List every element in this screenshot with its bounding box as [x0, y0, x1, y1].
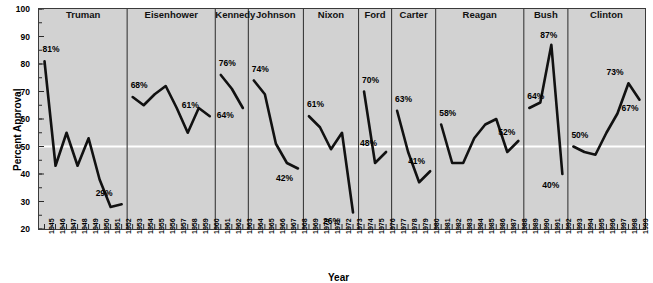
panel-label-kennedy: Kennedy — [215, 9, 248, 20]
series-lines-svg — [39, 9, 645, 229]
panel-label-eisenhower: Eisenhower — [127, 9, 215, 20]
panel-label-nixon: Nixon — [303, 9, 358, 20]
y-axis-title: Percent Approval — [12, 89, 23, 171]
series-line-kennedy — [221, 75, 243, 108]
y-tick-20: 20 — [4, 224, 30, 234]
x-tick-1954: 1954 — [147, 218, 154, 234]
value-label-nixon-1969: 61% — [307, 99, 324, 109]
value-label-carter-1980: 41% — [408, 156, 425, 166]
x-tick-1957: 1957 — [180, 218, 187, 234]
value-label-kennedy-1961: 76% — [219, 58, 236, 68]
value-label-reagan-1981: 58% — [439, 108, 456, 118]
y-tick-40: 40 — [4, 169, 30, 179]
panel-label-johnson: Johnson — [248, 9, 303, 20]
x-tick-1971: 1971 — [334, 218, 341, 234]
x-tick-1946: 1946 — [59, 218, 66, 234]
x-tick-1996: 1996 — [609, 218, 616, 234]
value-label-eisenhower-1960: 61% — [182, 100, 199, 110]
x-tick-1993: 1993 — [576, 218, 583, 234]
x-tick-1984: 1984 — [477, 218, 484, 234]
x-tick-1967: 1967 — [290, 218, 297, 234]
x-tick-1987: 1987 — [510, 218, 517, 234]
x-tick-1960: 1960 — [213, 218, 220, 234]
x-tick-1989: 1989 — [532, 218, 539, 234]
x-tick-1948: 1948 — [81, 218, 88, 234]
x-tick-1988: 1988 — [521, 218, 528, 234]
x-tick-1970: 1970 — [323, 218, 330, 234]
panel-label-bush: Bush — [524, 9, 568, 20]
panel-label-truman: Truman — [39, 9, 127, 20]
value-label-bush-1991: 87% — [540, 30, 557, 40]
x-tick-1997: 1997 — [620, 218, 627, 234]
x-tick-1973: 1973 — [356, 218, 363, 234]
x-tick-1962: 1962 — [235, 218, 242, 234]
value-label-bush-1992: 40% — [542, 180, 559, 190]
value-label-clinton-1999: 67% — [621, 103, 638, 113]
plot-area — [38, 8, 646, 230]
x-tick-1947: 1947 — [70, 218, 77, 234]
x-tick-1991: 1991 — [554, 218, 561, 234]
x-tick-1976: 1976 — [389, 218, 396, 234]
y-tick-30: 30 — [4, 197, 30, 207]
value-label-carter-1977: 63% — [395, 94, 412, 104]
x-tick-1979: 1979 — [422, 218, 429, 234]
x-tick-1994: 1994 — [587, 218, 594, 234]
x-tick-1953: 1953 — [136, 218, 143, 234]
value-label-ford-1974: 70% — [362, 75, 379, 85]
value-label-clinton-1993: 50% — [571, 130, 588, 140]
x-tick-1959: 1959 — [202, 218, 209, 234]
x-tick-1980: 1980 — [433, 218, 440, 234]
panel-label-reagan: Reagan — [436, 9, 524, 20]
x-tick-1964: 1964 — [257, 218, 264, 234]
series-line-bush — [529, 45, 562, 174]
y-tick-100: 100 — [4, 4, 30, 14]
x-tick-1998: 1998 — [631, 218, 638, 234]
x-tick-1958: 1958 — [191, 218, 198, 234]
x-tick-1977: 1977 — [400, 218, 407, 234]
x-tick-1995: 1995 — [598, 218, 605, 234]
value-label-kennedy-1963: 64% — [217, 110, 234, 120]
x-tick-1983: 1983 — [466, 218, 473, 234]
value-label-johnson-1968: 42% — [276, 173, 293, 183]
panel-label-carter: Carter — [392, 9, 436, 20]
x-tick-1992: 1992 — [565, 218, 572, 234]
x-tick-1974: 1974 — [367, 218, 374, 234]
value-label-johnson-1964: 74% — [252, 64, 269, 74]
x-tick-1952: 1952 — [125, 218, 132, 234]
value-label-bush-1989: 64% — [527, 91, 544, 101]
y-tick-60: 60 — [4, 114, 30, 124]
x-tick-1955: 1955 — [158, 218, 165, 234]
x-tick-1966: 1966 — [279, 218, 286, 234]
series-line-nixon — [309, 116, 353, 212]
value-label-reagan-1988: 52% — [498, 127, 515, 137]
series-line-johnson — [254, 81, 298, 169]
series-line-reagan — [441, 119, 518, 163]
x-tick-1950: 1950 — [103, 218, 110, 234]
x-tick-1982: 1982 — [455, 218, 462, 234]
x-tick-1978: 1978 — [411, 218, 418, 234]
x-tick-1961: 1961 — [224, 218, 231, 234]
x-tick-1945: 1945 — [48, 218, 55, 234]
panel-label-ford: Ford — [359, 9, 392, 20]
panel-label-clinton: Clinton — [568, 9, 645, 20]
value-label-truman-1945: 81% — [43, 44, 60, 54]
y-tick-90: 90 — [4, 32, 30, 42]
x-tick-1963: 1963 — [246, 218, 253, 234]
x-tick-1949: 1949 — [92, 218, 99, 234]
x-tick-1968: 1968 — [301, 218, 308, 234]
x-tick-1965: 1965 — [268, 218, 275, 234]
x-tick-1986: 1986 — [499, 218, 506, 234]
y-tick-70: 70 — [4, 87, 30, 97]
x-tick-1975: 1975 — [378, 218, 385, 234]
x-tick-1969: 1969 — [312, 218, 319, 234]
y-tick-80: 80 — [4, 59, 30, 69]
value-label-eisenhower-1953: 68% — [131, 80, 148, 90]
x-tick-1985: 1985 — [488, 218, 495, 234]
series-line-truman — [45, 61, 122, 207]
series-line-ford — [364, 92, 386, 164]
x-tick-1972: 1972 — [345, 218, 352, 234]
x-tick-1981: 1981 — [444, 218, 451, 234]
x-tick-1999: 1999 — [642, 218, 649, 234]
x-axis-title: Year — [328, 272, 349, 283]
